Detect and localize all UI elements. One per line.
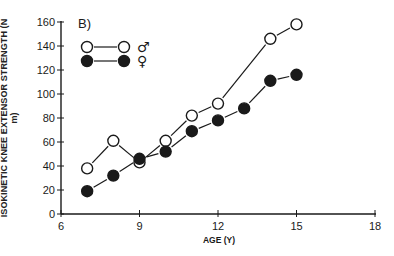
series-segment	[92, 146, 108, 163]
open-circle-marker	[186, 110, 197, 121]
legend: ♂♀	[82, 39, 150, 69]
y-tick-label: 100	[37, 88, 55, 100]
legend-marker	[82, 56, 93, 67]
open-circle-marker	[108, 135, 119, 146]
series-segment	[225, 112, 238, 118]
open-circle-marker	[265, 33, 276, 44]
series-segment	[171, 121, 186, 136]
filled-circle-marker	[265, 75, 276, 86]
open-circle-marker	[291, 19, 302, 30]
series-segment	[249, 86, 265, 103]
series-segment	[199, 107, 212, 113]
series-segment	[94, 179, 107, 187]
filled-circle-marker	[108, 170, 119, 181]
x-tick-label: 15	[290, 220, 302, 232]
filled-circle-marker	[239, 103, 250, 114]
filled-circle-marker	[186, 126, 197, 137]
x-tick-label: 9	[136, 220, 142, 232]
open-circle-marker	[82, 163, 93, 174]
series-segment	[119, 146, 134, 158]
x-tick-label: 12	[212, 220, 224, 232]
female-symbol-icon: ♀	[137, 53, 147, 69]
series-segment	[277, 28, 290, 35]
series-segment	[120, 163, 134, 172]
filled-circle-marker	[82, 186, 93, 197]
filled-circle-marker	[134, 153, 145, 164]
panel-label: B)	[78, 16, 91, 31]
y-tick-label: 40	[43, 160, 55, 172]
filled-circle-marker	[213, 115, 224, 126]
line-chart: 69121518020406080100120140160 ♂♀ B) AGE …	[0, 0, 394, 256]
y-tick-label: 160	[37, 16, 55, 28]
filled-circle-marker	[291, 69, 302, 80]
legend-marker	[119, 56, 130, 67]
y-tick-label: 0	[49, 208, 55, 220]
series-segment	[172, 136, 186, 147]
y-tick-label: 120	[37, 64, 55, 76]
legend-marker	[82, 42, 93, 53]
open-circle-marker	[213, 98, 224, 109]
x-axis-label: AGE (Y)	[203, 235, 235, 245]
x-tick-label: 18	[369, 220, 381, 232]
series-segment	[223, 45, 266, 98]
y-tick-label: 80	[43, 112, 55, 124]
series-segment	[199, 123, 211, 128]
y-tick-label: 140	[37, 40, 55, 52]
series-segment	[278, 76, 290, 79]
x-tick-label: 6	[58, 220, 64, 232]
series-markers	[82, 19, 302, 197]
open-circle-marker	[160, 135, 171, 146]
y-tick-label: 20	[43, 184, 55, 196]
filled-circle-marker	[160, 146, 171, 157]
legend-marker	[119, 42, 130, 53]
y-tick-label: 60	[43, 136, 55, 148]
